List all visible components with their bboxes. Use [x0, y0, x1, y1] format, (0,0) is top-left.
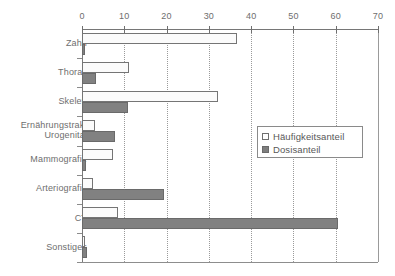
x-axis-tick — [293, 26, 294, 33]
bar-haeufigkeitsanteil — [82, 62, 129, 73]
y-axis-tick — [77, 262, 82, 263]
y-axis-tick-label-line: Ernährungstrakt — [21, 120, 87, 131]
bar-haeufigkeitsanteil — [82, 178, 93, 189]
bar-dosisanteil — [82, 247, 87, 258]
y-axis-tick — [77, 146, 82, 147]
legend-item-haeufigkeitsanteil: Häufigkeitsanteil — [262, 130, 362, 142]
x-axis-tick — [336, 26, 337, 33]
y-axis-tick — [77, 233, 82, 234]
y-axis-tick-label: Arteriografie — [36, 183, 87, 194]
x-axis-tick-label: 10 — [119, 11, 129, 21]
y-axis-tick-label-line: Mammografie — [30, 154, 87, 165]
y-axis-tick — [77, 175, 82, 176]
plot-bottom-border — [82, 262, 378, 263]
bar-dosisanteil — [82, 189, 164, 200]
y-axis-tick — [77, 204, 82, 205]
bar-haeufigkeitsanteil — [82, 91, 218, 102]
y-axis-tick — [77, 116, 82, 117]
bar-dosisanteil — [82, 131, 115, 142]
y-axis-tick-label-line: Sonstiges — [46, 242, 87, 253]
x-axis-tick-label: 30 — [204, 11, 214, 21]
gridline — [378, 30, 379, 262]
x-axis-tick — [378, 26, 379, 33]
x-axis-line — [82, 29, 378, 30]
filled-square-icon — [262, 146, 269, 153]
x-axis-tick-label: 20 — [161, 11, 171, 21]
open-square-icon — [262, 133, 269, 140]
bar-haeufigkeitsanteil — [82, 236, 85, 247]
y-axis-tick-label: ErnährungstraktUrogenital — [21, 120, 87, 141]
x-axis-tick-label: 40 — [246, 11, 256, 21]
y-axis-tick-label: Mammografie — [30, 154, 87, 165]
y-axis-tick-label-line: Arteriografie — [36, 183, 87, 194]
bar-dosisanteil — [82, 160, 86, 171]
bar-haeufigkeitsanteil — [82, 120, 95, 131]
y-axis-tick — [77, 87, 82, 88]
y-axis-tick-label: Sonstiges — [46, 242, 87, 253]
bar-chart: 010203040506070 ZahnThoraxSkelettErnähru… — [0, 0, 395, 276]
bar-haeufigkeitsanteil — [82, 207, 118, 218]
x-axis-tick-label: 60 — [330, 11, 340, 21]
x-axis-tick-label: 0 — [79, 11, 84, 21]
y-axis-tick-label-line: Urogenital — [21, 130, 87, 141]
x-axis-tick-label: 50 — [288, 11, 298, 21]
chart-legend: Häufigkeitsanteil Dosisanteil — [257, 126, 363, 158]
legend-label: Häufigkeitsanteil — [273, 131, 344, 142]
bar-haeufigkeitsanteil — [82, 149, 113, 160]
legend-label: Dosisanteil — [273, 144, 321, 155]
bar-dosisanteil — [82, 218, 338, 229]
x-axis-tick — [251, 26, 252, 33]
bar-haeufigkeitsanteil — [82, 33, 237, 44]
x-axis-tick-label: 70 — [373, 11, 383, 21]
bar-dosisanteil — [82, 73, 96, 84]
legend-item-dosisanteil: Dosisanteil — [262, 143, 362, 155]
bar-dosisanteil — [82, 44, 85, 55]
bar-dosisanteil — [82, 102, 128, 113]
y-axis-tick — [77, 58, 82, 59]
